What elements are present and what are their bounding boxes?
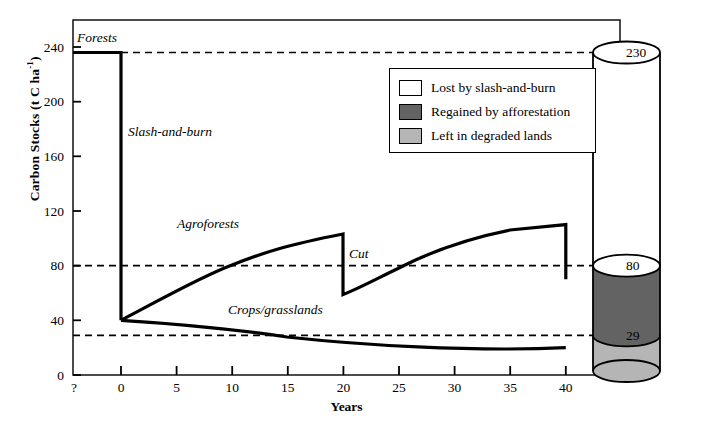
x-axis-title: Years <box>73 399 620 415</box>
right-tick-label-80: 80 <box>626 259 670 273</box>
legend-label-lost: Lost by slash-and-burn <box>431 81 555 95</box>
y-axis-title-left-close: ) <box>27 56 42 61</box>
x-tick-label-35: 35 <box>490 381 530 395</box>
y-axis-title-left-text: Carbon Stocks (t C ha <box>27 69 42 201</box>
y-tick-label-40: 40 <box>22 314 64 328</box>
x-tick-label-unknown: ? <box>54 381 94 395</box>
legend-swatch-degraded <box>399 128 422 144</box>
right-tick-label-230: 230 <box>626 46 670 60</box>
figure-root: 0 40 80 120 160 200 240 ? 0 5 10 15 20 2… <box>0 0 713 440</box>
legend-label-degraded: Left in degraded lands <box>431 129 552 143</box>
y-axis-title-left-sup: -1 <box>25 61 35 69</box>
legend-label-regained: Regained by afforestation <box>431 105 570 119</box>
y-axis-ticks <box>73 47 81 375</box>
legend-item-regained: Regained by afforestation <box>399 100 595 124</box>
annotation-slash-and-burn: Slash-and-burn <box>128 125 212 139</box>
x-tick-label-5: 5 <box>157 381 197 395</box>
x-tick-label-30: 30 <box>435 381 475 395</box>
x-tick-label-0: 0 <box>101 381 141 395</box>
right-tick-label-29: 29 <box>626 329 670 343</box>
legend-item-lost: Lost by slash-and-burn <box>399 76 595 100</box>
figure-caption <box>6 428 706 440</box>
legend: Lost by slash-and-burn Regained by affor… <box>389 68 596 153</box>
x-tick-label-10: 10 <box>212 381 252 395</box>
annotation-forests: Forests <box>77 31 117 45</box>
cylinder-segment-lost <box>593 53 660 277</box>
cylinder-bottom-cap <box>593 360 660 382</box>
annotation-agroforests: Agroforests <box>177 217 239 231</box>
x-tick-label-15: 15 <box>268 381 308 395</box>
x-tick-label-20: 20 <box>323 381 363 395</box>
y-tick-label-0: 0 <box>22 369 64 383</box>
x-tick-label-40: 40 <box>546 381 586 395</box>
legend-swatch-lost <box>399 80 422 96</box>
y-axis-title-left: Carbon Stocks (t C ha-1) <box>25 9 43 249</box>
legend-item-degraded: Left in degraded lands <box>399 124 595 148</box>
annotation-cut: Cut <box>349 247 369 261</box>
curve-forests-slash-and-burn <box>73 53 121 321</box>
chart-canvas <box>0 0 713 440</box>
annotation-crops-grasslands: Crops/grasslands <box>228 303 323 317</box>
x-axis-ticks <box>121 366 566 375</box>
x-tick-label-25: 25 <box>379 381 419 395</box>
curve-agroforests <box>121 225 566 321</box>
legend-swatch-regained <box>399 104 422 120</box>
y-tick-label-80: 80 <box>22 259 64 273</box>
